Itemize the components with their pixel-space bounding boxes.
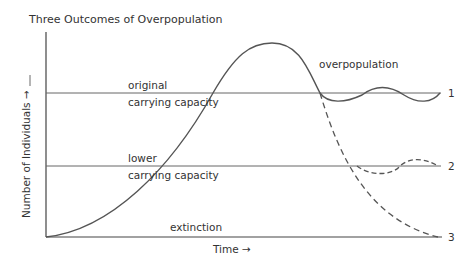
lower-capacity-label: carrying capacity: [128, 170, 219, 181]
population-curve-outcome-1: [46, 43, 440, 237]
outcome-2-dashed-curve: [357, 160, 438, 174]
outcome-3-label: 3: [448, 232, 455, 243]
outcome-3-dashed-curve: [320, 93, 438, 237]
overpopulation-label: overpopulation: [319, 59, 398, 70]
population-chart: [0, 0, 476, 270]
lower-label: lower: [128, 153, 157, 164]
outcome-2-label: 2: [448, 161, 455, 172]
outcome-1-label: 1: [448, 88, 455, 99]
original-label: original: [128, 80, 167, 91]
original-capacity-label: carrying capacity: [128, 97, 219, 108]
extinction-label: extinction: [170, 222, 222, 233]
x-axis-label: Time →: [213, 244, 251, 255]
